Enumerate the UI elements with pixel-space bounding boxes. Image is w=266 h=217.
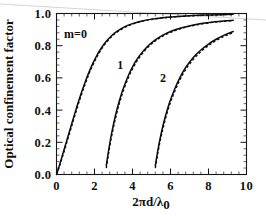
y-axis-title: Optical confinement factor (1, 19, 16, 169)
x-axis-title: 2πd/λ0 (132, 194, 169, 212)
curve-label: 2 (160, 71, 166, 85)
curve-mode-2-solid (155, 32, 233, 166)
curve-label: m=0 (64, 27, 87, 41)
x-tick-label: 6 (167, 179, 174, 193)
x-tick-label-group: 0246810 (53, 179, 253, 193)
curve-annotation-group: m=012 (64, 27, 166, 84)
curve-mode-1-dashed (106, 21, 233, 168)
x-tick-label: 0 (53, 179, 60, 193)
x-tick-label: 10 (240, 179, 254, 193)
y-tick-label: 0.8 (34, 39, 51, 53)
y-axis-title-group: Optical confinement factor (1, 19, 16, 169)
y-tick-label: 1.0 (34, 7, 51, 21)
y-tick-label-group: 0.00.20.40.60.81.0 (34, 7, 51, 182)
y-tick-label: 0.4 (34, 104, 51, 118)
x-tick-label: 8 (205, 179, 212, 193)
curve-mode-2-dashed (155, 33, 233, 169)
x-tick-label: 4 (129, 179, 136, 193)
y-tick-label: 0.0 (34, 168, 51, 182)
y-tick-label: 0.6 (34, 71, 51, 85)
chart-canvas: 0246810 0.00.20.40.60.81.0 m=012 2πd/λ0 … (0, 0, 266, 217)
curve-label: 1 (117, 58, 123, 72)
chart-figure: 0246810 0.00.20.40.60.81.0 m=012 2πd/λ0 … (0, 0, 266, 217)
y-tick-label: 0.2 (34, 136, 51, 150)
x-axis-title-group: 2πd/λ0 (132, 194, 169, 212)
x-tick-label: 2 (91, 179, 98, 193)
